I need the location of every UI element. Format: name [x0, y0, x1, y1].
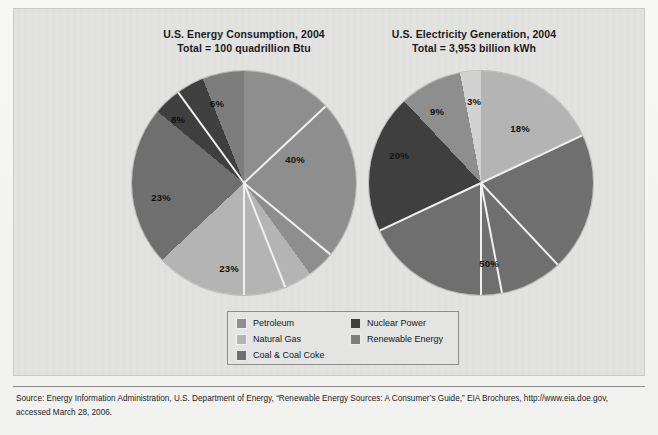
chart-subtitle-line2: Total = 3,953 billion kWh — [352, 41, 596, 55]
legend-item: Petroleum — [236, 316, 348, 332]
pie-slice-percent-label: 50% — [479, 258, 499, 269]
pie-slice-percent-label: 23% — [219, 263, 239, 274]
source-separator-rule — [13, 386, 645, 387]
pie-chart-electricity-generation: 18%50%20%9%3% — [369, 71, 593, 295]
legend-column-left: PetroleumNatural GasCoal & Coal Coke — [236, 316, 348, 364]
chart-title-line1: U.S. Electricity Generation, 2004 — [392, 28, 556, 40]
pie-chart-energy-consumption: 40%23%23%8%6% — [132, 71, 356, 295]
legend-item: Nuclear Power — [350, 316, 456, 332]
legend-item-label: Coal & Coal Coke — [253, 350, 325, 361]
pie-slice-percent-label: 6% — [210, 98, 224, 109]
legend-column-right: Nuclear PowerRenewable Energy — [350, 316, 456, 348]
legend-item-label: Renewable Energy — [367, 334, 443, 345]
pie-slice-percent-label: 20% — [389, 150, 409, 161]
pie-slice-percent-label: 18% — [510, 123, 530, 134]
chart-title-energy-consumption: U.S. Energy Consumption, 2004 Total = 10… — [122, 27, 366, 55]
legend-item-label: Nuclear Power — [367, 318, 426, 329]
pie-slice-divider — [480, 183, 482, 295]
legend-swatch-icon — [236, 318, 247, 329]
legend-swatch-icon — [236, 350, 247, 361]
legend-item-label: Natural Gas — [253, 334, 301, 345]
pie-slice-percent-label: 40% — [285, 154, 305, 165]
chart-subtitle-line2: Total = 100 quadrillion Btu — [122, 41, 366, 55]
pie-slice-percent-label: 3% — [467, 96, 481, 107]
legend-item: Natural Gas — [236, 332, 348, 348]
legend-item: Coal & Coal Coke — [236, 348, 348, 364]
source-citation-line2: accessed March 28, 2006. — [16, 406, 644, 420]
figure-root: U.S. Energy Consumption, 2004 Total = 10… — [0, 0, 658, 435]
source-citation-line1: Source: Energy Information Administratio… — [16, 392, 644, 406]
pie-slice-percent-label: 9% — [430, 106, 444, 117]
chart-title-line1: U.S. Energy Consumption, 2004 — [163, 28, 325, 40]
pie-slice-percent-label: 23% — [151, 192, 171, 203]
pie-slice-percent-label: 8% — [171, 114, 185, 125]
legend-item: Renewable Energy — [350, 332, 456, 348]
legend-swatch-icon — [350, 318, 361, 329]
source-citation: Source: Energy Information Administratio… — [16, 392, 644, 419]
chart-panel: U.S. Energy Consumption, 2004 Total = 10… — [13, 8, 645, 376]
chart-title-electricity-generation: U.S. Electricity Generation, 2004 Total … — [352, 27, 596, 55]
legend-swatch-icon — [350, 334, 361, 345]
pie-slice-divider — [243, 183, 245, 295]
legend-item-label: Petroleum — [253, 318, 294, 329]
legend: PetroleumNatural GasCoal & Coal Coke Nuc… — [227, 311, 459, 365]
legend-swatch-icon — [236, 334, 247, 345]
